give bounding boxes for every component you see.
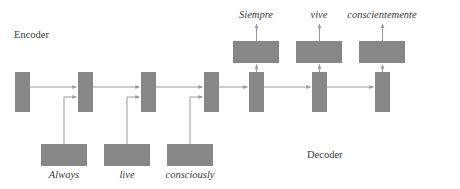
encoder-cell [141, 72, 156, 112]
output-projection-block [233, 41, 279, 63]
decoder-cell [312, 72, 327, 112]
target-token-label: conscientemente [332, 10, 432, 21]
output-projection-block [296, 41, 342, 63]
source-token-label: consciously [140, 170, 240, 181]
input-embedding-block [167, 144, 213, 166]
encoder-cell [78, 72, 93, 112]
decoder-cell [249, 72, 264, 112]
input-embedding-block [41, 144, 87, 166]
output-projection-block [359, 41, 405, 63]
encoder-label: Encoder [14, 30, 49, 41]
decoder-cell [375, 72, 390, 112]
decoder-label: Decoder [307, 150, 343, 161]
encoder-cell [15, 72, 30, 112]
seq2seq-diagram: Encoder Decoder Always live consciously … [0, 0, 460, 189]
encoder-cell [204, 72, 219, 112]
input-embedding-block [104, 144, 150, 166]
